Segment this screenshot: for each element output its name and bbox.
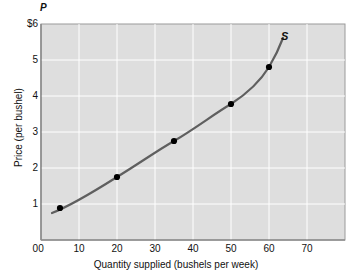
y-tick-6: $6 xyxy=(0,19,38,29)
x-axis-title: Quantity supplied (bushels per week) xyxy=(0,259,352,270)
x-tick-10: 10 xyxy=(64,244,94,254)
price-axis-symbol: P xyxy=(40,2,47,13)
x-tick-50: 50 xyxy=(216,244,246,254)
data-point-50-4 xyxy=(228,101,234,107)
data-point-35-3 xyxy=(171,138,177,144)
x-tick-40: 40 xyxy=(178,244,208,254)
y-axis-title: Price (per bushel) xyxy=(13,53,24,203)
x-tick-0: 0 xyxy=(26,244,56,254)
data-point-20-2 xyxy=(114,174,120,180)
x-tick-60: 60 xyxy=(254,244,284,254)
data-point-5-1 xyxy=(57,205,63,211)
data-point-60-5 xyxy=(266,64,272,70)
x-tick-30: 30 xyxy=(140,244,170,254)
supply-curve-figure: P S $6 5 4 3 2 1 0 0 10 20 30 40 50 60 7… xyxy=(0,0,352,275)
x-tick-20: 20 xyxy=(102,244,132,254)
chart-canvas xyxy=(0,0,352,275)
supply-curve-label: S xyxy=(281,30,288,42)
x-tick-70: 70 xyxy=(292,244,322,254)
